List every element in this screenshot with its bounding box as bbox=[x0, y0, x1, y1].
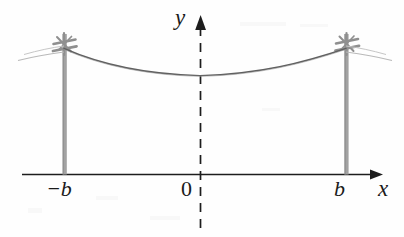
figure-canvas bbox=[0, 0, 404, 237]
paper-background bbox=[0, 0, 404, 237]
y-axis-label: y bbox=[175, 6, 185, 29]
right-tick-label: b bbox=[334, 178, 345, 200]
left-tick-label: −b bbox=[46, 178, 72, 200]
origin-label: 0 bbox=[181, 178, 192, 200]
x-axis-label: x bbox=[378, 177, 388, 200]
catenary-figure: y x 0 −b b bbox=[0, 0, 404, 237]
